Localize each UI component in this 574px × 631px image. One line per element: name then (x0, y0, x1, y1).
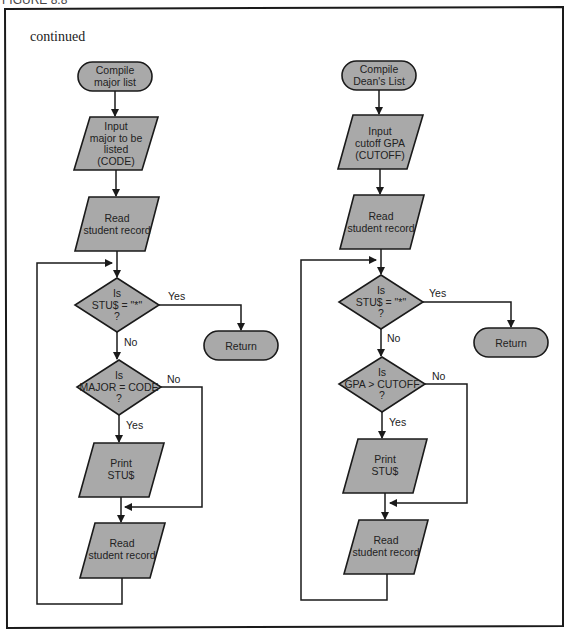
return-terminal: Return (204, 331, 278, 360)
svg-text:Is: Is (113, 287, 121, 299)
svg-text:Is: Is (377, 284, 385, 296)
svg-text:STU$: STU$ (372, 465, 399, 477)
svg-text:Is: Is (115, 369, 123, 381)
start-terminal-compile-major-list: Compile major list (78, 62, 152, 91)
svg-text:major list: major list (94, 76, 136, 88)
return-terminal: Return (474, 328, 548, 357)
yes-label: Yes (168, 290, 185, 302)
svg-text:Is: Is (378, 366, 386, 378)
svg-text:Print: Print (110, 457, 132, 469)
right-flowchart: Compile Dean's List Input cutoff GPA (CU… (301, 61, 548, 600)
no-label: No (124, 336, 138, 348)
left-flowchart: Compile major list Input major to be lis… (37, 62, 278, 604)
decision-major-equals-code: Is MAJOR = CODE ? (77, 360, 161, 415)
svg-text:student record: student record (83, 224, 150, 236)
svg-text:student record: student record (88, 549, 155, 561)
svg-text:?: ? (116, 392, 122, 404)
no-label: No (387, 332, 401, 344)
decision-stu-end-marker: Is STU$ = "*" ? (75, 278, 159, 332)
svg-text:STU$: STU$ (108, 469, 135, 481)
svg-text:cutoff GPA: cutoff GPA (355, 137, 405, 149)
print-stu-parallelogram: Print STU$ (79, 443, 164, 497)
svg-text:Read: Read (109, 537, 134, 549)
figure-label: FIGURE 8.8 (2, 0, 68, 7)
input-code-parallelogram: Input major to be listed (CODE) (74, 117, 158, 170)
svg-text:?: ? (378, 307, 384, 319)
continued-label: continued (30, 29, 85, 44)
start-terminal-compile-deans-list: Compile Dean's List (342, 61, 416, 90)
svg-text:Read: Read (373, 534, 398, 546)
svg-text:Input: Input (104, 120, 127, 132)
svg-text:Print: Print (374, 453, 396, 465)
no-label: No (167, 373, 181, 385)
yes-branch-line (159, 305, 241, 330)
decision-gpa-greater-than-cutoff: Is GPA > CUTOFF ? (339, 357, 425, 412)
print-stu-parallelogram: Print STU$ (343, 439, 427, 493)
yes-branch-line (423, 302, 511, 327)
svg-text:Return: Return (225, 340, 257, 352)
svg-text:Compile: Compile (96, 64, 135, 76)
yes-label: Yes (126, 419, 143, 431)
svg-text:Dean's List: Dean's List (353, 75, 405, 87)
flowchart-figure: FIGURE 8.8 continued Compile major list … (0, 0, 574, 631)
svg-text:Input: Input (368, 125, 391, 137)
svg-text:?: ? (114, 310, 120, 322)
svg-text:listed: listed (104, 143, 129, 155)
svg-text:student record: student record (347, 222, 414, 234)
svg-text:Read: Read (368, 210, 393, 222)
read-student-record-parallelogram: Read student record (340, 195, 424, 249)
figure-frame (5, 7, 563, 628)
svg-text:?: ? (379, 389, 385, 401)
read-student-record-parallelogram: Read student record (344, 520, 428, 574)
yes-label: Yes (429, 287, 446, 299)
yes-label: Yes (389, 416, 406, 428)
svg-text:(CUTOFF): (CUTOFF) (355, 149, 404, 161)
svg-text:(CODE): (CODE) (97, 155, 134, 167)
read-student-record-parallelogram: Read student record (80, 523, 165, 578)
svg-text:student record: student record (352, 546, 419, 558)
svg-text:Compile: Compile (360, 63, 399, 75)
svg-text:Return: Return (495, 337, 527, 349)
decision-stu-end-marker: Is STU$ = "*" ? (339, 275, 423, 329)
read-student-record-parallelogram: Read student record (75, 197, 159, 251)
no-label: No (432, 370, 446, 382)
svg-text:Read: Read (104, 212, 129, 224)
input-cutoff-parallelogram: Input cutoff GPA (CUTOFF) (338, 115, 423, 169)
